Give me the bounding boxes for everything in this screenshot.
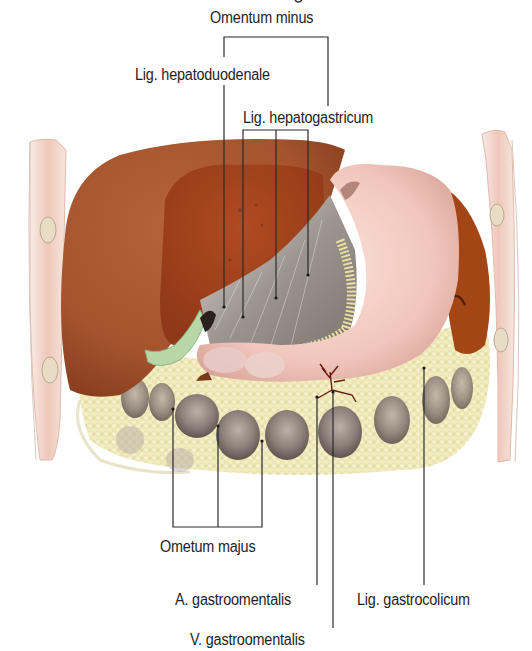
label-v-gastroomentalis: V. gastroomentalis	[190, 631, 305, 649]
label-lig-hepatogastricum: Lig. hepatogastricum	[243, 109, 373, 127]
label-a-gastroomentalis: A. gastroomentalis	[175, 591, 291, 609]
label-lig-gastrocolicum: Lig. gastrocolicum	[357, 591, 470, 609]
left-body-wall	[29, 139, 66, 460]
anatomy-illustration	[0, 0, 532, 651]
label-omentum-majus: Ometum majus	[160, 538, 255, 556]
label-omentum-minus: Omentum minus	[210, 9, 313, 27]
cropped-title-fragment	[295, 0, 302, 2]
label-lig-hepatoduodenale: Lig. hepatoduodenale	[135, 66, 270, 84]
